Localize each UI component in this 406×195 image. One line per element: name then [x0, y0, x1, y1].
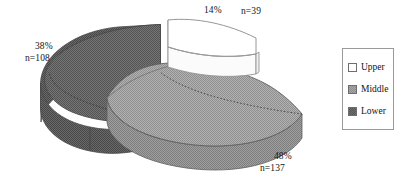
legend-swatch-upper	[348, 63, 357, 72]
chart-legend: Upper Middle Lower	[342, 48, 394, 130]
bottom-caption-fragment	[0, 186, 406, 195]
legend-swatch-lower	[348, 107, 357, 116]
legend-item-lower[interactable]: Lower	[348, 100, 393, 122]
slice-label-lower: 38% n=108	[25, 40, 53, 64]
slice-count-lower: n=108	[25, 52, 53, 64]
legend-label-middle: Middle	[361, 84, 388, 94]
pie-slice-upper	[168, 19, 259, 76]
pie-chart-figure: 14% n=39 38% n=108 48% n=137 Upper Middl…	[0, 0, 406, 195]
slice-count-middle: n=137	[260, 162, 292, 174]
legend-item-middle[interactable]: Middle	[348, 78, 393, 100]
slice-percent-lower: 38%	[35, 40, 53, 52]
slice-count-upper: n=39	[241, 5, 261, 17]
legend-item-upper[interactable]: Upper	[348, 56, 393, 78]
slice-label-upper: 14% n=39	[204, 4, 261, 17]
slice-percent-middle: 48%	[274, 150, 292, 162]
legend-label-lower: Lower	[361, 106, 386, 116]
slice-label-middle: 48% n=137	[260, 150, 292, 174]
legend-label-upper: Upper	[361, 62, 385, 72]
legend-swatch-middle	[348, 85, 357, 94]
